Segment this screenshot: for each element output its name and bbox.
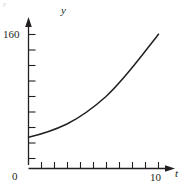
y-tick-label-160: 160 bbox=[3, 29, 20, 40]
exponential-growth-figure: y bbox=[0, 0, 184, 190]
x-axis-label: t bbox=[175, 168, 178, 179]
exponential-curve bbox=[29, 34, 159, 137]
y-axis-arrowhead bbox=[25, 17, 32, 27]
x-tick-label-10: 10 bbox=[150, 172, 161, 183]
y-axis-ticks bbox=[29, 35, 36, 159]
y-axis-label: y bbox=[61, 5, 66, 16]
origin-label: 0 bbox=[12, 171, 18, 182]
x-axis-ticks bbox=[42, 162, 159, 169]
plot-canvas bbox=[0, 0, 184, 190]
x-axis-arrowhead bbox=[165, 165, 175, 172]
